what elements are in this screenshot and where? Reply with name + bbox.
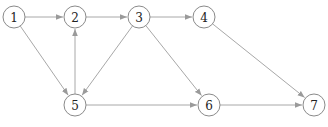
node-5: 5	[64, 94, 86, 116]
node-6: 6	[198, 94, 220, 116]
node-label: 2	[71, 11, 79, 25]
node-label: 3	[135, 11, 143, 25]
node-label: 5	[71, 99, 79, 113]
node-2: 2	[64, 6, 86, 28]
node-1: 1	[3, 6, 25, 28]
directed-graph: 1234567	[0, 0, 328, 127]
edge-3-to-5	[82, 26, 132, 95]
edges-group	[20, 17, 304, 105]
node-3: 3	[128, 6, 150, 28]
node-label: 1	[10, 11, 18, 25]
node-label: 6	[205, 99, 213, 113]
node-label: 7	[310, 99, 318, 113]
nodes-group: 1234567	[3, 6, 325, 116]
node-4: 4	[193, 6, 215, 28]
node-7: 7	[303, 94, 325, 116]
edge-1-to-5	[20, 26, 68, 95]
node-label: 4	[200, 11, 208, 25]
edge-3-to-6	[146, 26, 202, 96]
edge-4-to-7	[213, 24, 305, 98]
